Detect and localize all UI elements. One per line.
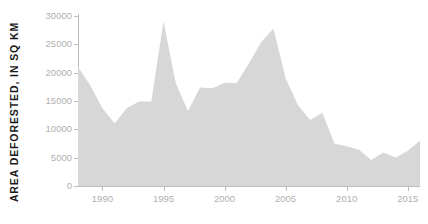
x-tick-mark: [102, 187, 103, 191]
x-tick-label: 2015: [397, 193, 418, 204]
x-tick-mark: [347, 187, 348, 191]
y-tick-label: 5000: [51, 153, 72, 163]
y-tick-label: 15000: [46, 96, 72, 106]
x-tick-mark: [286, 187, 287, 191]
x-tick-label: 1995: [153, 193, 174, 204]
y-tick-label-row: 5000: [30, 153, 72, 163]
y-tick-label: 25000: [46, 39, 72, 49]
y-tick-label: 0: [67, 181, 72, 191]
y-tick-label: 10000: [46, 124, 72, 134]
y-tick-label-row: 30000: [30, 11, 72, 21]
y-tick-label-row: 0: [30, 181, 72, 191]
x-tick-label: 2005: [275, 193, 296, 204]
y-tick-label-row: 20000: [30, 68, 72, 78]
y-tick-label-row: 25000: [30, 39, 72, 49]
y-axis-title-container: AREA DEFORESTED, IN SQ KM: [0, 0, 28, 224]
area-series-path: [78, 21, 420, 186]
x-tick-mark: [225, 187, 226, 191]
y-tick-label: 20000: [46, 68, 72, 78]
x-tick-label: 2010: [336, 193, 357, 204]
y-tick-label-row: 10000: [30, 124, 72, 134]
y-axis-title: AREA DEFORESTED, IN SQ KM: [8, 22, 20, 202]
area-series-svg: [78, 16, 420, 186]
y-tick-label: 30000: [46, 11, 72, 21]
x-tick-label: 2000: [214, 193, 235, 204]
y-tick-mark: [74, 186, 78, 187]
x-tick-mark: [164, 187, 165, 191]
deforestation-area-chart: AREA DEFORESTED, IN SQ KM 05000100001500…: [0, 0, 428, 224]
x-axis-line: [78, 186, 420, 187]
x-tick-label: 1990: [92, 193, 113, 204]
x-tick-mark: [408, 187, 409, 191]
plot-area: [78, 16, 420, 186]
y-tick-label-row: 15000: [30, 96, 72, 106]
